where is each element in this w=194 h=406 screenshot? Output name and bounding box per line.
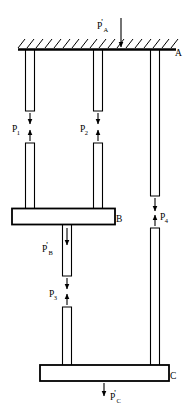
rod-b-middle-up	[94, 143, 103, 210]
label-p3-sub: 3	[54, 294, 57, 301]
bar-b-group	[12, 209, 115, 225]
label-force-p-4: P4	[160, 207, 169, 223]
bar-c-group	[40, 365, 169, 381]
rods-above-bar-c	[63, 228, 160, 366]
rods-above-bar-b	[26, 143, 103, 210]
label-force-p-3: P3	[49, 284, 58, 300]
ceiling-hatching	[18, 39, 178, 48]
bar-b-shape	[12, 209, 115, 225]
label-pc-sub: C	[116, 397, 120, 404]
label-body-b: B	[116, 209, 122, 225]
label-force-p-1: P1	[12, 119, 21, 135]
label-force-p-c-prime: P'C	[110, 387, 121, 403]
label-p1-sub: 1	[17, 129, 20, 136]
rod-ceiling-right	[151, 50, 160, 196]
label-pb-sub: B	[48, 249, 52, 256]
label-force-p-a-prime: P'A	[97, 16, 109, 32]
label-p-a-sub: A	[103, 26, 108, 33]
diagram-canvas: P'A A P1 P2 B P'B P3 P4 C P'C	[0, 0, 194, 406]
label-a-text: A	[175, 48, 182, 58]
diagram-svg	[0, 0, 194, 406]
bar-c-shape	[40, 365, 169, 381]
label-p4-sub: 4	[165, 217, 168, 224]
label-body-c: C	[170, 366, 176, 382]
label-c-text: C	[170, 371, 176, 381]
label-p2-sub: 2	[85, 129, 88, 136]
label-b-text: B	[116, 214, 122, 224]
rod-ceiling-middle	[94, 50, 103, 111]
rod-ceiling-left	[26, 50, 35, 111]
rod-c-left-up	[63, 307, 72, 366]
rods-from-ceiling	[26, 50, 160, 196]
ceiling-group	[18, 39, 178, 50]
label-body-a: A	[175, 43, 182, 59]
force-arrows	[30, 18, 155, 396]
label-force-p-2: P2	[80, 119, 89, 135]
rod-c-right-up	[151, 228, 160, 366]
label-force-p-b-prime: P'B	[42, 239, 53, 255]
rod-b-left-up	[26, 143, 35, 210]
